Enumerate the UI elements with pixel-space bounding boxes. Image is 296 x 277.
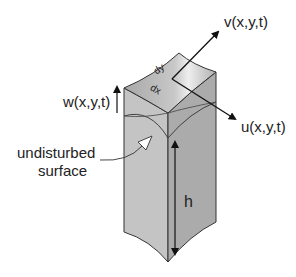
w-label: w(x,y,t) xyxy=(62,93,110,110)
v-label: v(x,y,t) xyxy=(224,13,268,30)
water-column-diagram: v(x,y,t) u(x,y,t) w(x,y,t) dy dx undistu… xyxy=(0,0,296,277)
u-label: u(x,y,t) xyxy=(241,118,286,135)
undisturbed-label-line1: undisturbed xyxy=(17,144,95,161)
h-label: h xyxy=(184,193,193,210)
undisturbed-label-line2: surface xyxy=(38,162,87,179)
